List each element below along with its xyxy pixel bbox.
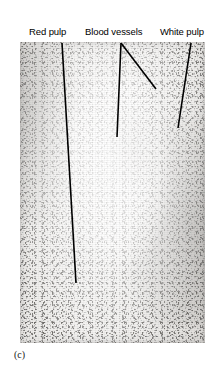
figure-panel-c: Red pulp Blood vessels White pulp (c) xyxy=(0,0,224,370)
spleen-micrograph xyxy=(20,42,205,343)
panel-caption: (c) xyxy=(14,349,25,360)
label-red-pulp: Red pulp xyxy=(29,26,66,37)
label-blood-vessels: Blood vessels xyxy=(85,26,142,37)
micrograph-vignette xyxy=(20,42,205,343)
label-white-pulp: White pulp xyxy=(160,26,204,37)
